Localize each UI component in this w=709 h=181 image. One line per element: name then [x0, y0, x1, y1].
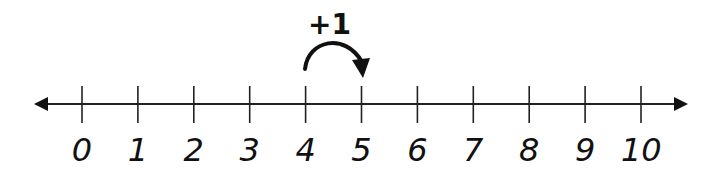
jump-arrowhead-icon	[352, 58, 370, 78]
left-arrow-icon	[34, 97, 48, 111]
tick-label-0: 0	[62, 130, 102, 170]
right-arrow-icon	[674, 97, 688, 111]
tick-label-10: 10	[621, 130, 661, 170]
number-line-diagram: +1 012345678910	[0, 0, 709, 181]
tick-label-6: 6	[397, 130, 437, 170]
jump-label: +1	[308, 8, 351, 42]
tick-label-2: 2	[174, 130, 214, 170]
tick-label-8: 8	[509, 130, 549, 170]
tick-label-4: 4	[286, 130, 326, 170]
tick-label-5: 5	[342, 130, 382, 170]
tick-label-1: 1	[118, 130, 158, 170]
tick-label-9: 9	[565, 130, 605, 170]
jump-arc	[305, 43, 362, 69]
tick-label-3: 3	[230, 130, 270, 170]
tick-label-7: 7	[453, 130, 493, 170]
